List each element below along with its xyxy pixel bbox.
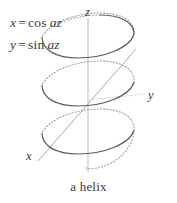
equation-y: y=sinaz — [10, 38, 60, 52]
figure-caption: a helix — [0, 180, 177, 193]
equation-x-function: cos — [28, 15, 47, 30]
helix-top-tail-segment — [58, 15, 100, 24]
y-axis — [88, 94, 145, 100]
equation-y-operator: = — [16, 37, 28, 52]
z-axis-label: z — [85, 6, 90, 19]
equation-y-argument: az — [44, 37, 59, 52]
y-axis-label: y — [148, 89, 154, 102]
equation-y-function: sin — [28, 37, 44, 52]
equation-x-operator: = — [16, 15, 28, 30]
equation-x: x=cosaz — [10, 16, 62, 30]
x-axis-label: x — [26, 150, 32, 163]
helix-figure: x=cosaz y=sinaz z y x a helix — [0, 0, 177, 203]
equation-x-argument: az — [47, 15, 62, 30]
